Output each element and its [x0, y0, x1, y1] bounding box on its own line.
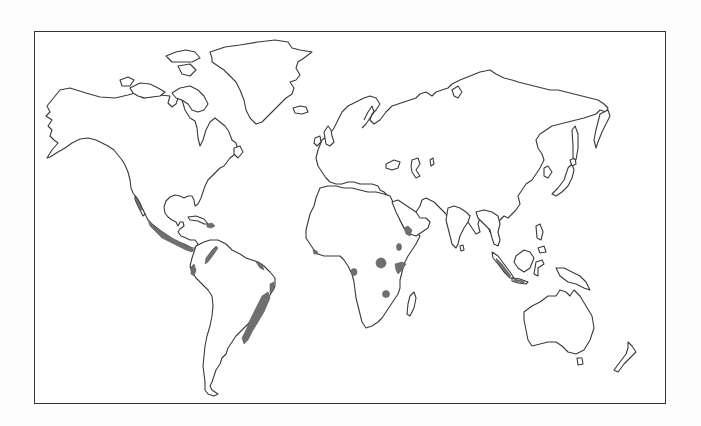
arctic-island-3 — [120, 77, 134, 86]
arctic-island-2 — [166, 50, 200, 62]
hispaniola-highlight — [207, 223, 215, 228]
newfoundland — [234, 146, 243, 158]
sri-lanka — [460, 245, 464, 251]
tasmania — [577, 358, 583, 365]
philippines-south — [538, 246, 546, 253]
brazil-coast-highlight — [270, 282, 274, 294]
indochina — [476, 210, 500, 246]
kamchatka — [594, 110, 610, 148]
cuba — [188, 216, 208, 224]
india — [446, 206, 470, 248]
korea — [544, 166, 552, 178]
australia — [524, 290, 594, 354]
south-america — [190, 240, 275, 396]
southern-africa-highlight — [383, 291, 390, 298]
philippines — [536, 224, 543, 240]
borneo — [514, 250, 534, 272]
ethiopia-highlight — [397, 244, 402, 251]
congo-highlight — [351, 269, 357, 276]
arctic-island-4 — [178, 64, 196, 76]
new-guinea — [556, 268, 590, 290]
great-britain — [324, 126, 334, 146]
madagascar — [407, 292, 416, 316]
iceland — [293, 106, 308, 114]
page — [0, 0, 701, 426]
sumatra-highlight — [496, 258, 511, 277]
sakhalin — [572, 126, 578, 160]
world-map — [0, 0, 701, 426]
central-africa-highlight — [376, 258, 386, 268]
aral-sea — [430, 158, 434, 166]
sulawesi — [534, 260, 544, 276]
japan — [552, 164, 574, 196]
new-zealand — [614, 342, 636, 372]
